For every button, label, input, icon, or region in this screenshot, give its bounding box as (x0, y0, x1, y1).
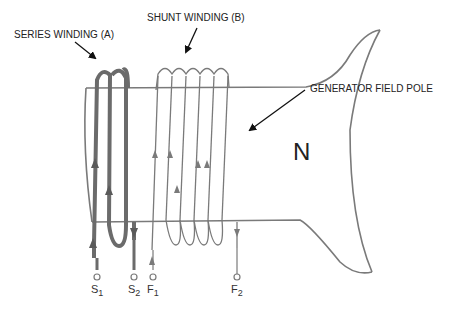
north-pole-letter: N (293, 138, 310, 166)
terminal-letter: F (147, 283, 154, 295)
field-pole-outline (85, 30, 380, 273)
terminal-f1 (150, 274, 156, 280)
terminal-f2 (234, 274, 240, 280)
terminal-label-f1: F1 (147, 283, 159, 298)
terminal-label-f2: F2 (231, 283, 243, 298)
field-pole-label: GENERATOR FIELD POLE (310, 83, 433, 94)
series-winding (94, 69, 134, 258)
terminal-subscript: 2 (238, 288, 243, 298)
terminal-letter: F (231, 283, 238, 295)
terminal-subscript: 2 (135, 288, 140, 298)
generator-field-diagram (0, 0, 454, 311)
terminal-s2 (131, 274, 137, 280)
terminal-s1 (94, 274, 100, 280)
terminal-subscript: 1 (98, 288, 103, 298)
terminal-label-s2: S2 (128, 283, 140, 298)
terminal-label-s1: S1 (91, 283, 103, 298)
shunt-winding-label: SHUNT WINDING (B) (147, 12, 245, 23)
shunt-winding (152, 69, 237, 251)
terminal-subscript: 1 (154, 288, 159, 298)
series-winding-label: SERIES WINDING (A) (14, 29, 114, 40)
